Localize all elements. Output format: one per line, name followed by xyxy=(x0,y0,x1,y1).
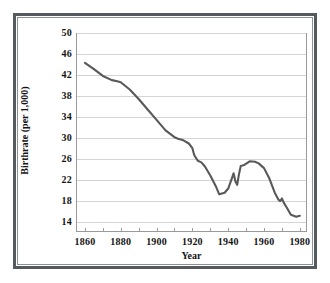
y-tick-label-18: 18 xyxy=(50,196,72,206)
y-tick-label-42: 42 xyxy=(50,70,72,80)
plot-area xyxy=(76,33,307,232)
y-tick-label-46: 46 xyxy=(50,49,72,59)
gridlines-group xyxy=(76,34,307,223)
y-tick-label-14: 14 xyxy=(50,217,72,227)
y-tick-label-34: 34 xyxy=(50,112,72,122)
y-tick-label-22: 22 xyxy=(50,175,72,185)
line-chart-svg xyxy=(76,33,307,232)
x-axis-title: Year xyxy=(76,250,307,261)
y-tick-label-26: 26 xyxy=(50,154,72,164)
y-tick-label-30: 30 xyxy=(50,133,72,143)
y-axis-title: Birthrate (per 1,000) xyxy=(19,61,30,201)
x-tick-label-1980: 1980 xyxy=(278,236,322,247)
chart-figure: 14182226303438424650 1860188019001920194… xyxy=(0,0,330,283)
y-tick-label-38: 38 xyxy=(50,91,72,101)
plot-wrapper: 14182226303438424650 1860188019001920194… xyxy=(0,0,330,283)
y-tick-label-50: 50 xyxy=(50,28,72,38)
birthrate-line-series xyxy=(85,63,300,217)
